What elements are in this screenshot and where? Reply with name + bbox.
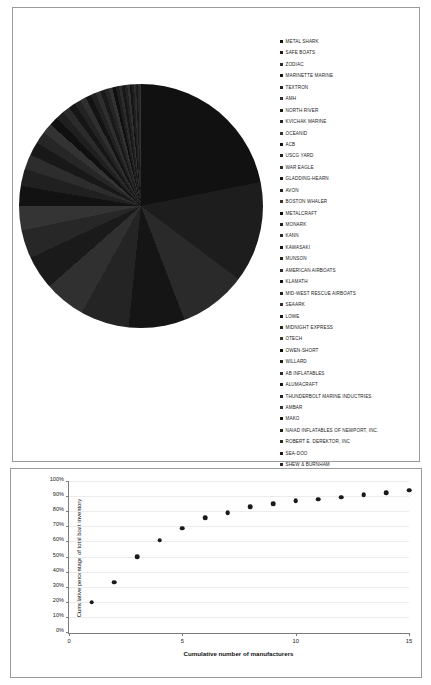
y-axis-tick <box>66 541 69 542</box>
y-axis-tick-label: 70% <box>53 521 64 527</box>
legend-swatch-icon <box>280 303 283 306</box>
legend-swatch-icon <box>280 395 283 398</box>
y-axis-tick <box>66 481 69 482</box>
scatter-plot-area: 0%10%20%30%40%50%60%70%80%90%100%051015 <box>68 482 409 634</box>
legend-swatch-icon <box>280 223 283 226</box>
legend-swatch-icon <box>280 440 283 443</box>
legend-swatch-icon <box>280 143 283 146</box>
legend-swatch-icon <box>280 463 283 466</box>
y-gridline <box>69 587 409 588</box>
y-gridline <box>69 511 409 512</box>
y-axis-tick <box>66 572 69 573</box>
y-axis-tick-label: 50% <box>53 552 64 558</box>
y-gridline <box>69 557 409 558</box>
scatter-point[interactable] <box>271 502 276 507</box>
scatter-point[interactable] <box>89 600 94 605</box>
legend-swatch-icon <box>280 200 283 203</box>
y-axis-tick <box>66 496 69 497</box>
legend-swatch-icon <box>280 177 283 180</box>
scatter-point[interactable] <box>361 493 366 498</box>
y-axis-tick-label: 30% <box>53 582 64 588</box>
legend-item[interactable]: AMBAR <box>280 402 420 413</box>
legend-item[interactable]: TEXTRON <box>280 82 420 93</box>
legend-swatch-icon <box>280 154 283 157</box>
legend-swatch-icon <box>280 269 283 272</box>
y-axis-tick-label: 40% <box>53 567 64 573</box>
pie-chart <box>19 84 267 334</box>
legend-swatch-icon <box>280 257 283 260</box>
legend-swatch-icon <box>280 120 283 123</box>
legend-item[interactable]: SEAARK <box>280 299 420 310</box>
legend-item[interactable]: OCEANID <box>280 128 420 139</box>
legend-swatch-icon <box>280 234 283 237</box>
y-axis-tick-label: 20% <box>53 597 64 603</box>
y-gridline <box>69 526 409 527</box>
y-gridline <box>69 572 409 573</box>
legend-swatch-icon <box>280 429 283 432</box>
pie-graphic <box>19 84 263 328</box>
legend-item[interactable]: ALUMACRAFT <box>280 379 420 390</box>
legend-swatch-icon <box>280 51 283 54</box>
scatter-point[interactable] <box>112 580 117 585</box>
legend-item[interactable]: MONARK <box>280 219 420 230</box>
y-axis-tick-label: 90% <box>53 491 64 497</box>
x-axis-tick <box>69 633 70 636</box>
pie-chart-panel: METAL SHARKSAFE BOATSZODIACMARINETTE MAR… <box>12 7 420 462</box>
legend-swatch-icon <box>280 383 283 386</box>
legend-swatch-icon <box>280 132 283 135</box>
legend-item[interactable]: WILLARD <box>280 356 420 367</box>
pie-chart-legend: METAL SHARKSAFE BOATSZODIACMARINETTE MAR… <box>280 36 420 482</box>
y-axis-tick-label: 0% <box>56 627 64 633</box>
scatter-point[interactable] <box>157 538 162 543</box>
y-axis-tick <box>66 617 69 618</box>
y-axis-tick-label: 80% <box>53 506 64 512</box>
y-axis-tick-label: 60% <box>53 536 64 542</box>
x-axis-label: Cumulative number of manufacturers <box>68 650 409 657</box>
scatter-point[interactable] <box>384 490 389 495</box>
y-gridline <box>69 541 409 542</box>
legend-swatch-icon <box>280 97 283 100</box>
x-axis-tick <box>182 633 183 636</box>
y-axis-tick-label: 100% <box>50 476 64 482</box>
scatter-point[interactable] <box>135 554 140 559</box>
legend-swatch-icon <box>280 292 283 295</box>
legend-swatch-icon <box>280 360 283 363</box>
legend-swatch-icon <box>280 63 283 66</box>
scatter-point[interactable] <box>316 497 321 502</box>
x-axis-tick <box>409 633 410 636</box>
y-gridline <box>69 496 409 497</box>
y-gridline <box>69 602 409 603</box>
y-axis-tick <box>66 602 69 603</box>
legend-swatch-icon <box>280 166 283 169</box>
legend-item[interactable]: GLADDING-HEARN <box>280 173 420 184</box>
y-axis-tick-label: 10% <box>53 612 64 618</box>
legend-swatch-icon <box>280 315 283 318</box>
legend-swatch-icon <box>280 452 283 455</box>
scatter-point[interactable] <box>339 495 344 500</box>
legend-swatch-icon <box>280 74 283 77</box>
scatter-point[interactable] <box>225 511 230 516</box>
y-axis-tick <box>66 587 69 588</box>
scatter-point[interactable] <box>293 499 298 504</box>
legend-item[interactable]: BOSTON WHALER <box>280 196 420 207</box>
legend-item[interactable]: KLAMATH <box>280 276 420 287</box>
x-axis-tick-label: 0 <box>67 638 70 644</box>
legend-swatch-icon <box>280 280 283 283</box>
scatter-chart-panel: Cumulative percentage of total boat inve… <box>10 468 422 678</box>
scatter-point[interactable] <box>203 515 208 520</box>
y-gridline <box>69 481 409 482</box>
legend-item[interactable]: AMH <box>280 93 420 104</box>
scatter-point[interactable] <box>407 488 412 493</box>
x-axis-tick-label: 15 <box>406 638 412 644</box>
legend-swatch-icon <box>280 326 283 329</box>
legend-swatch-icon <box>280 212 283 215</box>
scatter-point[interactable] <box>248 505 253 510</box>
y-axis-tick <box>66 526 69 527</box>
legend-swatch-icon <box>280 349 283 352</box>
legend-swatch-icon <box>280 337 283 340</box>
legend-swatch-icon <box>280 109 283 112</box>
legend-swatch-icon <box>280 246 283 249</box>
x-axis-tick-label: 5 <box>181 638 184 644</box>
legend-item[interactable]: KVICHAK MARINE <box>280 116 420 127</box>
scatter-point[interactable] <box>180 526 185 531</box>
